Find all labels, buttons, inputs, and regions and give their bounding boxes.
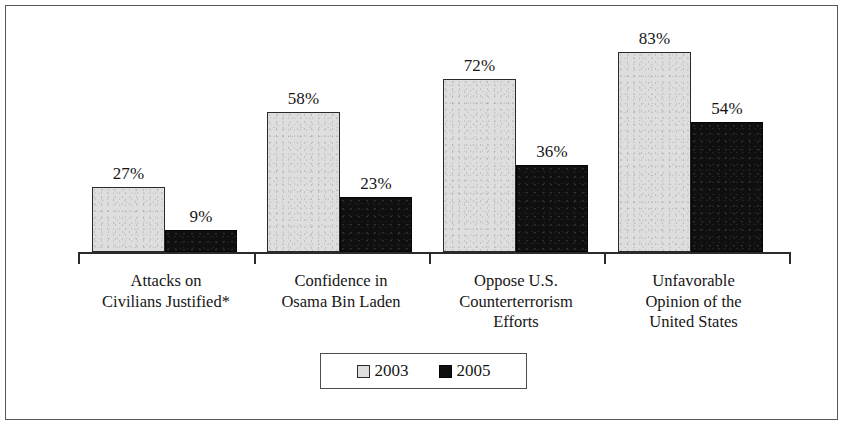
bar-2003-attacks-on-civilians-justified xyxy=(92,187,165,252)
bar-2005-confidence-in-osama-bin-laden xyxy=(340,197,412,252)
category-label-line: United States xyxy=(601,312,786,333)
category-label-line: Civilians Justified* xyxy=(76,292,256,313)
category-label-oppose-us-counterterrorism-efforts: Oppose U.S. Counterterrorism Efforts xyxy=(426,271,606,333)
bar-2003-unfavorable-opinion-of-the-united-states xyxy=(618,52,691,252)
legend-entry-2005: 2005 xyxy=(439,362,491,380)
category-label-line: Counterterrorism xyxy=(426,292,606,313)
value-label-2003-group-1: 27% xyxy=(92,164,165,183)
value-label-2005-group-4: 54% xyxy=(691,99,763,118)
legend-swatch-square-icon-2003 xyxy=(357,365,370,378)
bar-2005-unfavorable-opinion-of-the-united-states xyxy=(691,122,763,252)
category-label-line: Efforts xyxy=(426,312,606,333)
category-label-line: Confidence in xyxy=(251,271,431,292)
legend-label-2003: 2003 xyxy=(375,362,409,380)
category-label-line: Osama Bin Laden xyxy=(251,292,431,313)
bar-2003-oppose-us-counterterrorism-efforts xyxy=(443,79,516,252)
category-label-line: Unfavorable xyxy=(601,271,786,292)
value-label-2003-group-3: 72% xyxy=(443,56,516,75)
plot-area: 27% 9% 58% 23% 72% 36% 83% 54% Attacks o… xyxy=(0,0,844,426)
chart-legend: 2003 2005 xyxy=(320,353,527,389)
bar-2003-confidence-in-osama-bin-laden xyxy=(267,112,340,252)
legend-swatch-square-icon-2005 xyxy=(439,365,452,378)
value-label-2005-group-1: 9% xyxy=(165,207,237,226)
value-label-2003-group-2: 58% xyxy=(267,89,340,108)
x-axis-tick xyxy=(789,253,791,264)
x-axis-tick xyxy=(604,253,606,264)
value-label-2005-group-3: 36% xyxy=(516,142,588,161)
category-label-line: Opinion of the xyxy=(601,292,786,313)
category-label-attacks-on-civilians-justified: Attacks on Civilians Justified* xyxy=(76,271,256,312)
category-label-line: Oppose U.S. xyxy=(426,271,606,292)
value-label-2005-group-2: 23% xyxy=(340,174,412,193)
x-axis-tick xyxy=(78,253,80,264)
x-axis-line xyxy=(78,252,791,254)
value-label-2003-group-4: 83% xyxy=(618,29,691,48)
bar-2005-oppose-us-counterterrorism-efforts xyxy=(516,165,588,252)
category-label-confidence-in-osama-bin-laden: Confidence in Osama Bin Laden xyxy=(251,271,431,312)
legend-label-2005: 2005 xyxy=(457,362,491,380)
bar-2005-attacks-on-civilians-justified xyxy=(165,230,237,252)
category-label-unfavorable-opinion-of-the-united-states: Unfavorable Opinion of the United States xyxy=(601,271,786,333)
x-axis-tick xyxy=(254,253,256,264)
chart-figure: 27% 9% 58% 23% 72% 36% 83% 54% Attacks o… xyxy=(0,0,844,426)
legend-entry-2003: 2003 xyxy=(357,362,409,380)
category-label-line: Attacks on xyxy=(76,271,256,292)
x-axis-tick xyxy=(429,253,431,264)
